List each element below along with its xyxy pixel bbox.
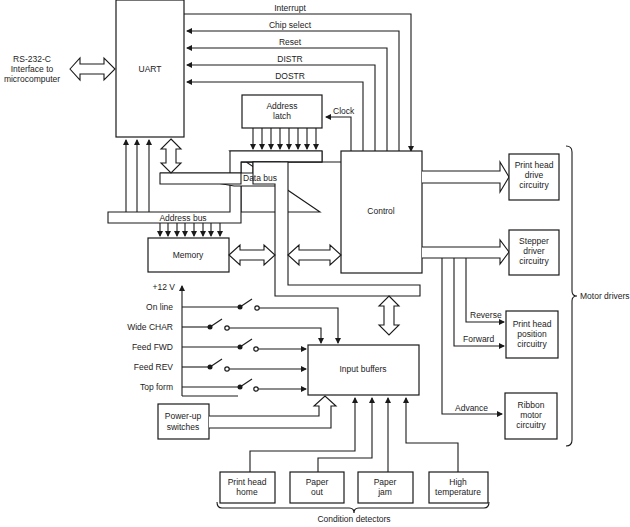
svg-text:Paper: Paper xyxy=(306,477,329,487)
control-data-double-arrow-icon xyxy=(288,245,341,265)
svg-text:On line: On line xyxy=(146,302,173,312)
svg-text:Power-up: Power-up xyxy=(165,411,202,421)
condition-detectors-brace xyxy=(217,502,489,513)
power-up-wide-arrow-icon xyxy=(209,396,336,428)
motor-drivers-label: Motor drivers xyxy=(580,291,630,301)
memory-label: Memory xyxy=(173,250,204,260)
rs232-double-arrow-icon xyxy=(70,58,115,80)
svg-text:circuitry: circuitry xyxy=(517,339,547,349)
svg-text:jam: jam xyxy=(377,487,392,497)
power-up-switches-block: Power-up switches xyxy=(158,396,336,439)
svg-text:latch: latch xyxy=(273,111,291,121)
signal-reverse: Reverse xyxy=(470,310,502,320)
print-head-home-block: Print head home xyxy=(220,472,275,503)
data-bus-label: Data bus xyxy=(243,173,277,183)
switch-on-line: On line xyxy=(146,299,338,343)
svg-text:Print head: Print head xyxy=(513,319,552,329)
svg-text:out: out xyxy=(311,487,323,497)
uart-block: UART xyxy=(116,0,184,137)
control-block: Control xyxy=(341,151,422,273)
condition-detectors-label: Condition detectors xyxy=(317,514,390,524)
svg-text:Feed REV: Feed REV xyxy=(134,362,174,372)
signal-forward: Forward xyxy=(463,334,494,344)
svg-text:switches: switches xyxy=(167,422,200,432)
memory-address-lines xyxy=(160,223,220,236)
rs232-interface: RS-232-C Interface to microcomputer xyxy=(4,54,115,84)
input-buffers-block: Input buffers xyxy=(308,345,419,395)
svg-text:RS-232-C: RS-232-C xyxy=(13,54,51,64)
svg-text:drive: drive xyxy=(525,170,544,180)
condition-detectors: Print head home Paper out Paper jam High… xyxy=(217,472,489,524)
paper-out-block: Paper out xyxy=(290,472,344,503)
condition-lines xyxy=(250,398,458,472)
svg-text:Feed FWD: Feed FWD xyxy=(132,342,173,352)
stepper-driver-block: Stepper driver circuitry xyxy=(509,230,559,275)
switch-wide-char: Wide CHAR xyxy=(127,319,321,343)
signal-interrupt: Interrupt xyxy=(274,3,306,13)
address-bus: Address bus xyxy=(108,140,322,236)
print-head-drive-block: Print head drive circuitry xyxy=(509,154,559,200)
signal-dostr: DOSTR xyxy=(275,71,305,81)
svg-text:Top form: Top form xyxy=(140,382,173,392)
uart-label: UART xyxy=(139,64,162,74)
svg-text:High: High xyxy=(449,477,467,487)
memory-block: Memory xyxy=(148,238,229,272)
signal-advance: Advance xyxy=(455,403,488,413)
svg-text:driver: driver xyxy=(523,246,544,256)
svg-text:Wide CHAR: Wide CHAR xyxy=(127,322,173,332)
signal-clock: Clock xyxy=(333,106,355,116)
input-buffers-label: Input buffers xyxy=(339,364,386,374)
address-latch-outputs xyxy=(253,128,316,149)
switch-top-form: Top form xyxy=(140,379,306,392)
svg-text:circuitry: circuitry xyxy=(519,180,549,190)
print-head-position-block: Print head position circuitry xyxy=(506,311,558,358)
svg-text:home: home xyxy=(236,487,258,497)
svg-text:microcomputer: microcomputer xyxy=(4,74,60,84)
svg-text:Print head: Print head xyxy=(228,477,267,487)
signal-reset: Reset xyxy=(279,37,302,47)
svg-text:position: position xyxy=(517,329,547,339)
svg-text:Print head: Print head xyxy=(515,160,554,170)
ribbon-motor-block: Ribbon motor circuitry xyxy=(505,393,557,439)
input-buffer-data-double-arrow-icon xyxy=(379,296,399,335)
svg-text:Address: Address xyxy=(266,101,297,111)
address-latch-block: Address latch xyxy=(242,95,322,149)
uart-data-double-arrow-icon xyxy=(161,139,181,173)
svg-text:temperature: temperature xyxy=(435,487,481,497)
memory-data-double-arrow-icon xyxy=(229,245,275,265)
paper-jam-block: Paper jam xyxy=(358,472,413,503)
svg-text:Paper: Paper xyxy=(374,477,397,487)
svg-text:circuitry: circuitry xyxy=(519,256,549,266)
switch-feed-rev: Feed REV xyxy=(134,359,306,372)
motor-drivers-brace xyxy=(566,146,577,446)
svg-text:Ribbon: Ribbon xyxy=(518,400,545,410)
svg-text:Stepper: Stepper xyxy=(519,236,549,246)
control-label: Control xyxy=(367,206,395,216)
supply-voltage-label: +12 V xyxy=(153,282,176,292)
printer-block-diagram: UART RS-232-C Interface to microcomputer… xyxy=(0,0,630,527)
signal-chip-select: Chip select xyxy=(269,20,312,30)
control-to-print-head-drive-arrow-icon xyxy=(422,162,509,192)
svg-text:motor: motor xyxy=(520,410,542,420)
switch-feed-fwd: Feed FWD xyxy=(132,339,306,352)
address-bus-label: Address bus xyxy=(159,213,206,223)
switch-panel: +12 V On line Wide CHAR Feed FWD xyxy=(127,282,338,396)
svg-text:Interface to: Interface to xyxy=(11,64,54,74)
svg-text:circuitry: circuitry xyxy=(516,420,546,430)
high-temperature-block: High temperature xyxy=(429,472,488,503)
signal-distr: DISTR xyxy=(277,54,303,64)
